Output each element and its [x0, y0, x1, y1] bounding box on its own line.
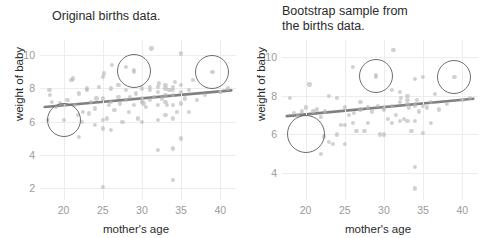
y-tick-label-right: 8	[271, 90, 277, 102]
x-tick-label-right: 20	[300, 204, 312, 216]
x-tick-label-left: 30	[136, 204, 148, 216]
gridline-horizontal	[40, 155, 236, 156]
x-tick-label-left: 40	[214, 204, 226, 216]
y-tick-label-right: 10	[265, 51, 277, 63]
panel-title-right: Bootstrap sample from the births data.	[282, 4, 472, 34]
highlight-circle	[437, 60, 471, 94]
x-tick-label-left: 20	[58, 204, 70, 216]
x-tick-label-right: 30	[378, 204, 390, 216]
highlight-circle	[287, 115, 325, 153]
panel-bootstrap-sample: Bootstrap sample from the births data. w…	[242, 0, 484, 238]
highlight-circle	[117, 54, 151, 88]
x-tick-label-right: 35	[417, 204, 429, 216]
x-axis-label-right: mother's age	[278, 223, 478, 235]
gridline-horizontal	[282, 96, 478, 97]
highlight-circle	[195, 55, 229, 89]
x-tick-label-right: 40	[456, 204, 468, 216]
highlight-circle	[359, 59, 393, 93]
y-tick-label-left: 6	[29, 116, 35, 128]
gridline-horizontal	[282, 173, 478, 174]
x-tick-label-left: 35	[175, 204, 187, 216]
panel-title-left: Original births data.	[52, 9, 242, 24]
y-tick-label-right: 6	[271, 128, 277, 140]
y-tick-label-left: 10	[23, 49, 35, 61]
y-tick-label-left: 8	[29, 82, 35, 94]
plot-area-right: 468102025303540	[282, 40, 478, 200]
gridline-horizontal	[40, 188, 236, 189]
plot-area-left: 2468102025303540	[40, 40, 236, 200]
x-tick-label-right: 25	[339, 204, 351, 216]
highlight-circle	[47, 103, 81, 137]
figure-container: Original births data. weight of baby mot…	[0, 0, 484, 238]
y-axis-label-left: weight of baby	[13, 29, 25, 139]
y-tick-label-left: 2	[29, 182, 35, 194]
y-axis-label-right: weight of baby	[255, 29, 267, 139]
gridline-horizontal	[40, 88, 236, 89]
x-tick-label-left: 25	[97, 204, 109, 216]
x-axis-label-left: mother's age	[36, 223, 236, 235]
gridline-vertical	[345, 40, 346, 200]
y-tick-label-left: 4	[29, 149, 35, 161]
panel-original-births: Original births data. weight of baby mot…	[0, 0, 242, 238]
gridline-vertical	[181, 40, 182, 200]
gridline-vertical	[423, 40, 424, 200]
y-tick-label-right: 4	[271, 167, 277, 179]
